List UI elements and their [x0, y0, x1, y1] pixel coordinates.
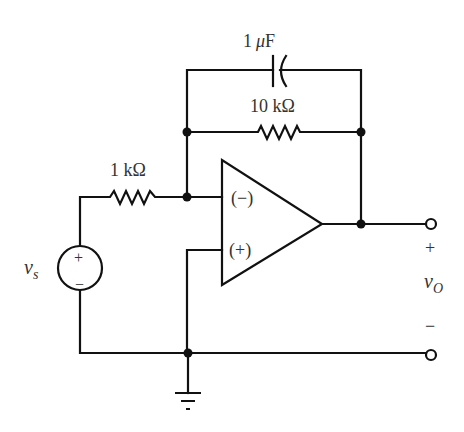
capacitor-label: 1μF: [243, 31, 275, 51]
source-voltage-label: vs: [24, 256, 39, 282]
feedback-resistor: [187, 126, 361, 139]
circuit-diagram: 1μF 10 kΩ 1 kΩ (−) (+) + vO − + − vs: [0, 0, 464, 432]
node-inverting-input: [183, 193, 192, 202]
wire-cap-right: [280, 70, 361, 224]
input-resistor: [80, 191, 222, 246]
output-terminal-positive: [426, 219, 436, 229]
feedback-resistor-branch: 10 kΩ: [183, 96, 366, 139]
node-feedback-right: [357, 128, 366, 137]
output-voltage-label: vO: [424, 270, 443, 296]
wire-cap-left: [187, 70, 273, 197]
ground: [175, 349, 201, 410]
opamp-inverting-label: (−): [231, 188, 253, 209]
node-output: [357, 220, 366, 229]
input-resistor-label: 1 kΩ: [110, 160, 146, 180]
node-feedback-left: [183, 128, 192, 137]
feedback-resistor-label: 10 kΩ: [250, 96, 295, 116]
opamp-triangle: [222, 160, 322, 285]
voltage-source: + − vs: [24, 246, 426, 353]
source-plus-sign: +: [74, 249, 83, 266]
output-terminal-negative: [426, 350, 436, 360]
output-branch: + vO −: [322, 219, 443, 360]
output-plus-label: +: [425, 238, 435, 258]
output-minus-label: −: [425, 316, 435, 336]
wire-ground-return: [80, 290, 426, 353]
opamp-noninverting-label: (+): [229, 240, 251, 261]
opamp: (−) (+): [187, 160, 322, 353]
input-resistor-branch: 1 kΩ: [80, 160, 222, 246]
wire-noninverting-input: [187, 250, 222, 353]
